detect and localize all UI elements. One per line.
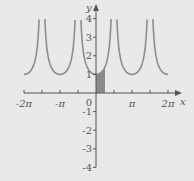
y-tick-label: 4 (86, 13, 92, 24)
x-tick-label: -2π (16, 98, 33, 109)
y-tick-label: -1 (82, 106, 92, 117)
curve-sec (45, 19, 75, 74)
y-axis-label: y (85, 2, 92, 13)
x-tick-label: -π (55, 98, 65, 109)
x-tick-label: π (128, 98, 136, 109)
y-tick-label: 2 (86, 50, 92, 61)
y-tick-label: 1 (86, 69, 92, 80)
x-tick-label: 2π (161, 98, 175, 109)
plot-area: -2π-ππ2π04321-1-2-3-4xy (0, 0, 194, 181)
x-axis-label: x (180, 96, 186, 107)
y-axis-arrow (93, 4, 99, 11)
y-tick-label: -3 (82, 143, 92, 154)
sec-graph: -2π-ππ2π04321-1-2-3-4xy (0, 0, 194, 181)
y-tick-label: -4 (82, 162, 92, 173)
y-tick-label: -2 (82, 125, 92, 136)
curve-sec (153, 19, 168, 74)
curve-sec (117, 19, 147, 74)
y-tick-label: 3 (86, 32, 92, 43)
curve-sec (24, 19, 39, 74)
